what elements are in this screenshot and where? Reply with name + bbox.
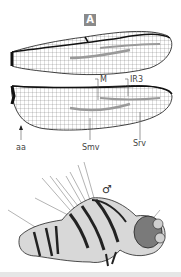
bottom-divider bbox=[0, 272, 181, 277]
thorax-illustration bbox=[8, 162, 165, 266]
dragonfly-illustration: A M IR3 aa Smv Srv ♂ bbox=[0, 0, 181, 277]
label-m: M bbox=[100, 75, 107, 84]
label-aa: aa bbox=[16, 143, 26, 152]
hindwing bbox=[12, 85, 172, 130]
label-srv: Srv bbox=[133, 139, 146, 148]
label-ir3: IR3 bbox=[130, 75, 143, 84]
panel-label-badge: A bbox=[84, 14, 96, 26]
figure-artwork bbox=[0, 0, 181, 277]
label-smv: Smv bbox=[82, 143, 100, 152]
male-symbol-icon: ♂ bbox=[102, 185, 112, 194]
arrow-aa-icon bbox=[19, 125, 23, 130]
forewing bbox=[12, 31, 172, 74]
